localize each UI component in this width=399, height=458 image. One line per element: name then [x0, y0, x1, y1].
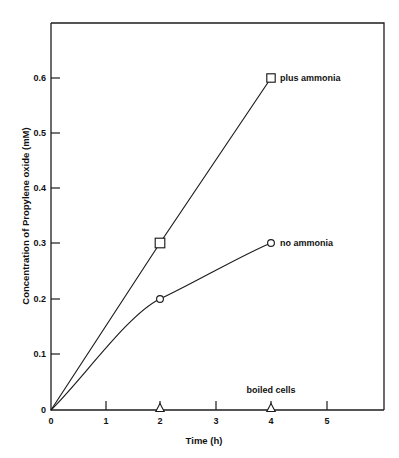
series-annotation-plus-ammonia: plus ammonia — [280, 73, 342, 83]
x-tick-label-2: 2 — [157, 416, 162, 426]
marker-open-circle-t4 — [268, 240, 275, 247]
y-tick-label-0.2: 0.2 — [33, 294, 46, 304]
marker-open-circle-t2 — [157, 296, 164, 303]
marker-open-square-t2 — [155, 238, 165, 248]
chart-figure: 0.6 0.5 0.4 0.3 0.2 0.1 0 0 1 2 3 4 5 Ti… — [0, 0, 399, 458]
x-tick-label-0: 0 — [48, 416, 53, 426]
x-tick-label-3: 3 — [213, 416, 218, 426]
y-tick-label-0.6: 0.6 — [33, 73, 46, 83]
y-tick-label-0: 0 — [41, 405, 46, 415]
y-axis-title: Concentration of Propylene oxide (mM) — [20, 127, 31, 304]
y-tick-label-0.5: 0.5 — [33, 128, 46, 138]
y-tick-label-0.3: 0.3 — [33, 238, 46, 248]
x-tick-label-5: 5 — [324, 416, 329, 426]
x-axis-title: Time (h) — [186, 435, 223, 446]
marker-open-square-t4 — [267, 74, 275, 82]
chart-background — [0, 0, 399, 458]
y-tick-label-0.1: 0.1 — [33, 349, 46, 359]
concentration-vs-time-chart: 0.6 0.5 0.4 0.3 0.2 0.1 0 0 1 2 3 4 5 Ti… — [0, 0, 399, 458]
x-tick-label-4: 4 — [268, 416, 273, 426]
series-annotation-boiled-cells: boiled cells — [246, 385, 295, 395]
series-annotation-no-ammonia: no ammonia — [280, 238, 334, 248]
x-tick-label-1: 1 — [103, 416, 108, 426]
y-tick-label-0.4: 0.4 — [33, 183, 46, 193]
